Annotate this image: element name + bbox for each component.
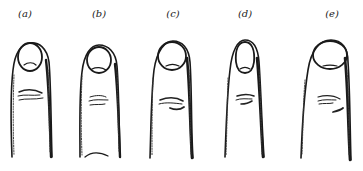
- finger-b: [80, 45, 120, 157]
- nail-d: [236, 42, 254, 73]
- nail-b: [87, 47, 111, 73]
- finger-nail-illustration: (a) (b) (c) (d) (e): [0, 0, 363, 171]
- finger-d: [225, 40, 264, 157]
- nail-c: [158, 42, 186, 70]
- finger-a: [11, 43, 52, 157]
- finger-c: [150, 41, 193, 158]
- nail-a: [18, 43, 42, 71]
- finger-e: [301, 40, 351, 160]
- fingers-drawing: [0, 0, 363, 171]
